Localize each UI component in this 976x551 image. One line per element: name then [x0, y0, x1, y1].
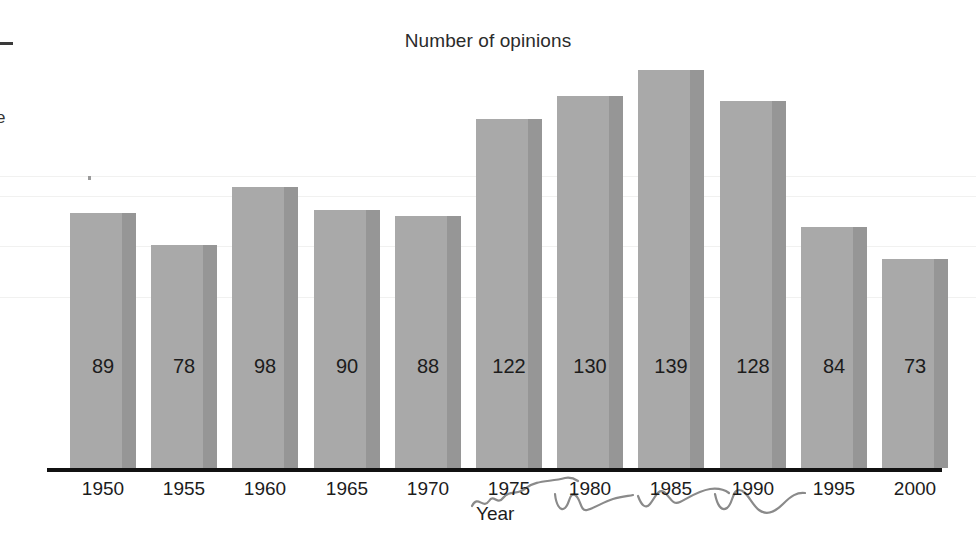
- x-tick-label-1985: 1985: [631, 478, 711, 500]
- x-tick-label-1980: 1980: [550, 478, 630, 500]
- chart-page: e Number of opinions 8978989088122130139…: [0, 0, 976, 551]
- x-tick-label-1965: 1965: [307, 478, 387, 500]
- x-tick-label-1960: 1960: [225, 478, 305, 500]
- bar-1975: 122: [476, 119, 542, 468]
- bar-shade: [690, 70, 704, 468]
- bar-value-label: 73: [882, 355, 948, 378]
- x-tick-label-1995: 1995: [794, 478, 874, 500]
- plot-area: 89789890881221301391288473: [0, 0, 976, 551]
- bar-1990: 128: [720, 101, 786, 468]
- bar-value-label: 128: [720, 355, 786, 378]
- bar-1980: 130: [557, 96, 623, 468]
- bar-1955: 78: [151, 245, 217, 468]
- bar-1960: 98: [232, 187, 298, 468]
- bar-shade: [284, 187, 298, 468]
- x-tick-label-1970: 1970: [388, 478, 468, 500]
- bar-shade: [528, 119, 542, 468]
- bar-1950: 89: [70, 213, 136, 468]
- bar-1985: 139: [638, 70, 704, 468]
- bar-shade: [122, 213, 136, 468]
- bar-value-label: 130: [557, 355, 623, 378]
- bar-1995: 84: [801, 227, 867, 468]
- bar-value-label: 139: [638, 355, 704, 378]
- bar-shade: [609, 96, 623, 468]
- x-tick-label-1990: 1990: [713, 478, 793, 500]
- x-tick-label-1955: 1955: [144, 478, 224, 500]
- bar-value-label: 122: [476, 355, 542, 378]
- bar-2000: 73: [882, 259, 948, 468]
- bar-value-label: 84: [801, 355, 867, 378]
- bar-shade: [447, 216, 461, 468]
- bar-shade: [772, 101, 786, 468]
- x-axis-line: [47, 468, 942, 472]
- bar-1965: 90: [314, 210, 380, 468]
- bar-value-label: 89: [70, 355, 136, 378]
- bar-shade: [366, 210, 380, 468]
- x-tick-label-1950: 1950: [63, 478, 143, 500]
- x-tick-label-2000: 2000: [875, 478, 955, 500]
- bar-value-label: 88: [395, 355, 461, 378]
- bar-1970: 88: [395, 216, 461, 468]
- x-tick-label-1975: 1975: [469, 478, 549, 500]
- bar-value-label: 98: [232, 355, 298, 378]
- bar-value-label: 90: [314, 355, 380, 378]
- x-axis-title: Year: [476, 503, 514, 525]
- bar-shade: [853, 227, 867, 468]
- bar-value-label: 78: [151, 355, 217, 378]
